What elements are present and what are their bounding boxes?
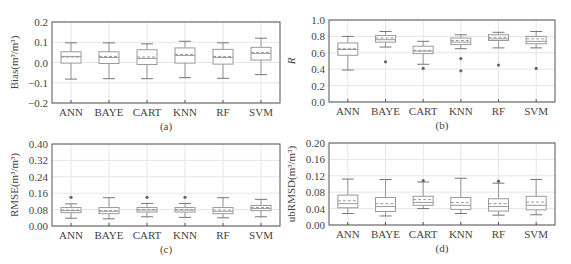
box-knn: [451, 178, 471, 213]
y-tick-label: 0.08: [306, 186, 326, 198]
box-cart: [413, 179, 433, 208]
outlier-point: [497, 180, 500, 183]
box-baye: [376, 179, 396, 215]
x-tick-label: RF: [492, 228, 505, 240]
x-tick-label: BAYE: [371, 228, 400, 240]
chart-d-svg: 0.000.040.080.120.160.20ubRMSD(m³/m³)ANN…: [0, 0, 571, 264]
grid: [329, 143, 555, 225]
y-axis-label: ubRMSD(m³/m³): [285, 146, 298, 223]
y-tick-label: 0.16: [306, 153, 326, 165]
y-tick-label: 0.00: [306, 219, 326, 231]
x-tick-label: CART: [409, 228, 438, 240]
x-tick-label: ANN: [336, 228, 360, 240]
y-tick-label: 0.04: [306, 203, 326, 215]
chart-panel-d: 0.000.040.080.120.160.20ubRMSD(m³/m³)ANN…: [0, 0, 571, 264]
x-tick-label: SVM: [524, 228, 548, 240]
x-tick-label: KNN: [449, 228, 473, 240]
box-rf: [489, 180, 509, 216]
y-tick-label: 0.12: [306, 170, 325, 182]
plot-frame: [329, 143, 555, 225]
box-svm: [526, 179, 546, 214]
subfigure-caption: (d): [436, 242, 449, 255]
y-tick-label: 0.20: [306, 137, 326, 149]
outlier-point: [422, 179, 425, 182]
